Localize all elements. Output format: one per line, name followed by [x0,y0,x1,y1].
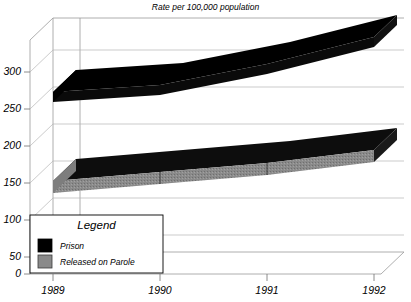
ytick-label-0: 0 [0,267,21,279]
ytick-label-50: 50 [0,250,21,262]
gridline-depth-300 [30,50,53,72]
gridline-depth-200 [30,124,53,146]
xaxis-ticks [53,274,374,281]
gridline-depth-150 [30,161,53,183]
xtick-label-1992: 1992 [354,284,394,296]
xtick-label-1989: 1989 [33,284,73,296]
chart-title: Rate per 100,000 population [0,2,411,12]
ytick-label-100: 100 [0,213,21,225]
chart-container: Rate per 100,000 population 300 250 200 … [0,0,411,302]
legend-label-parole: Released on Parole [60,257,135,267]
ytick-label-150: 150 [0,176,21,188]
depth-edge-top-left [30,18,53,40]
ytick-label-300: 300 [0,65,21,77]
legend-title: Legend [30,219,163,231]
series-ribbon-parole [53,128,397,193]
gridline-depth-250 [30,87,53,109]
depth-edge-bottom-right [381,252,404,274]
legend-label-prison: Prison [60,241,84,251]
xtick-label-1991: 1991 [247,284,287,296]
xtick-label-1990: 1990 [140,284,180,296]
series-ribbon-prison [53,15,397,102]
yaxis-ticks [24,72,30,274]
legend-swatch-parole [38,255,52,268]
ytick-label-250: 250 [0,102,21,114]
legend-swatch-prison [38,239,52,252]
ytick-label-200: 200 [0,139,21,151]
